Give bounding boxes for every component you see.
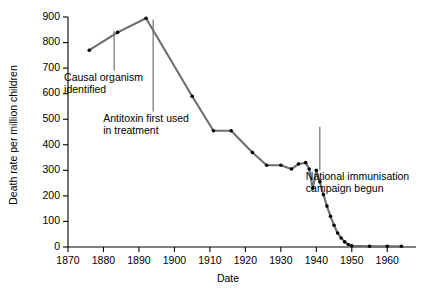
x-tick-label: 1870 [56, 254, 80, 266]
data-point [346, 243, 350, 247]
x-tick-label: 1890 [127, 254, 151, 266]
data-point [190, 94, 194, 98]
y-axis-ticks: 0100200300400500600700800900 [42, 10, 68, 252]
line-chart: Death rate per million children 01002003… [0, 0, 424, 290]
annotation-text-national-immunisation: National immunisation [306, 170, 409, 182]
x-tick-label: 1950 [340, 254, 364, 266]
annotation-leader-lines [114, 20, 320, 171]
y-tick-label: 300 [42, 163, 60, 175]
data-point [87, 48, 91, 52]
y-tick-label: 900 [42, 10, 60, 22]
y-axis-title-text: Death rate per million children [7, 65, 19, 205]
y-tick-label: 700 [42, 61, 60, 73]
y-tick-label: 600 [42, 86, 60, 98]
data-point [343, 240, 347, 244]
data-point [251, 151, 255, 155]
y-tick-label: 100 [42, 214, 60, 226]
x-tick-label: 1960 [376, 254, 400, 266]
y-tick-label: 200 [42, 189, 60, 201]
annotation-text-causal-organism: identified [64, 83, 106, 95]
data-point [325, 204, 329, 208]
data-point [368, 244, 372, 248]
x-axis-ticks: 1870188018901900191019201930194019501960 [56, 247, 399, 266]
data-point [400, 244, 404, 248]
data-point [144, 16, 148, 20]
data-point [279, 163, 283, 167]
data-point [332, 223, 336, 227]
x-tick-label: 1920 [234, 254, 258, 266]
x-tick-label: 1930 [269, 254, 293, 266]
y-tick-label: 500 [42, 112, 60, 124]
data-point [212, 129, 216, 133]
data-point [116, 31, 120, 35]
x-tick-label: 1900 [163, 254, 187, 266]
data-point [385, 244, 389, 248]
data-point [304, 161, 308, 165]
data-point [336, 231, 340, 235]
x-axis-title-text: Date [217, 272, 239, 284]
y-tick-label: 800 [42, 35, 60, 47]
data-point [265, 163, 269, 167]
x-tick-label: 1880 [92, 254, 116, 266]
y-tick-label: 0 [54, 240, 60, 252]
y-axis-title: Death rate per million children [7, 65, 19, 205]
annotation-text-national-immunisation: campaign begun [306, 182, 384, 194]
data-point [350, 244, 354, 248]
annotation-text-causal-organism: Causal organism [64, 71, 143, 83]
y-tick-label: 400 [42, 138, 60, 150]
data-point [339, 236, 343, 240]
x-tick-label: 1910 [198, 254, 222, 266]
chart-container: Death rate per million children 01002003… [0, 0, 424, 290]
data-point [290, 167, 294, 171]
data-point [229, 129, 233, 133]
annotation-text-antitoxin: in treatment [103, 124, 159, 136]
data-point [297, 162, 301, 166]
annotation-text-antitoxin: Antitoxin first used [103, 112, 189, 124]
data-point [329, 215, 333, 219]
chart-annotations: Causal organismidentifiedAntitoxin first… [64, 71, 409, 195]
x-tick-label: 1940 [305, 254, 329, 266]
